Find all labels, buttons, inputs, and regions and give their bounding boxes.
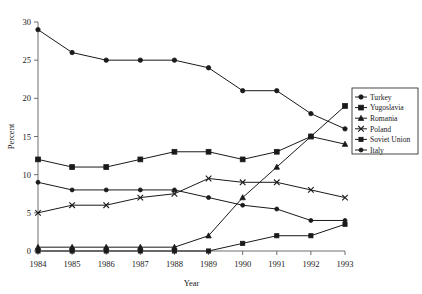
chart-canvas: 0510152025301984198519861987198819891990…: [0, 0, 422, 294]
series-turkey: [36, 27, 347, 131]
y-tick-label: 20: [23, 93, 32, 103]
series-line: [38, 137, 345, 248]
x-tick-label: 1985: [64, 259, 81, 269]
x-tick-label: 1992: [302, 259, 319, 269]
series-line: [38, 106, 345, 167]
series-poland: [35, 176, 348, 216]
series-romania: [35, 134, 347, 250]
x-axis-title: Year: [184, 278, 200, 288]
legend-label: Soviet Union: [370, 135, 410, 144]
x-tick-label: 1993: [337, 259, 354, 269]
y-tick-label: 0: [27, 246, 31, 256]
series-soviet-union: [36, 222, 347, 253]
y-tick-label: 15: [23, 132, 32, 142]
legend-label: Italy: [370, 146, 384, 155]
y-tick-label: 10: [23, 170, 32, 180]
series-line: [38, 178, 345, 212]
x-tick-label: 1989: [200, 259, 217, 269]
line-chart: 0510152025301984198519861987198819891990…: [0, 0, 422, 294]
x-tick-label: 1990: [234, 259, 251, 269]
legend-label: Yugoslavia: [370, 103, 404, 112]
x-tick-label: 1984: [30, 259, 48, 269]
y-tick-label: 25: [23, 55, 32, 65]
x-tick-label: 1988: [166, 259, 183, 269]
x-tick-label: 1986: [98, 259, 115, 269]
y-axis-title: Percent: [6, 123, 16, 149]
legend-label: Poland: [370, 125, 391, 134]
y-tick-label: 5: [27, 208, 31, 218]
x-tick-label: 1991: [268, 259, 285, 269]
series-yugoslavia: [36, 104, 348, 170]
x-tick-label: 1987: [132, 259, 149, 269]
series-line: [38, 30, 345, 129]
legend-label: Turkey: [370, 93, 392, 102]
series-line: [38, 182, 345, 220]
legend-label: Romania: [370, 114, 398, 123]
y-tick-label: 30: [23, 17, 32, 27]
